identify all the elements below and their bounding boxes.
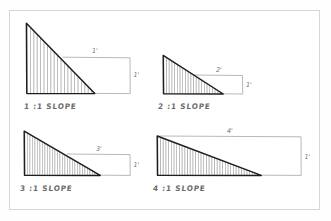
- figure-slope-3-1: 3' 1' 3 :1 SLOPE: [22, 128, 137, 183]
- run-dimension-4-1: 4': [227, 127, 233, 135]
- figure-slope-2-1-drawing: 2' 1': [161, 52, 261, 102]
- rise-dimension-4-1: 1': [305, 153, 311, 161]
- figure-slope-1-1: 1' 1' 1 :1 SLOPE: [24, 19, 134, 101]
- rise-dimension-3-1: 1': [134, 161, 140, 169]
- figure-label-slope-3-1: 3 :1 SLOPE: [19, 184, 73, 194]
- figure-slope-3-1-drawing: 3' 1': [22, 128, 137, 183]
- dimension-box-1-1: [63, 57, 131, 93]
- triangle-outline-1-1: [26, 23, 94, 93]
- rise-dimension-1-1: 1': [134, 71, 140, 79]
- figure-slope-1-1-drawing: 1' 1': [24, 19, 134, 101]
- figure-label-slope-2-1: 2 :1 SLOPE: [157, 102, 211, 112]
- dimension-box-3-1: [67, 154, 130, 175]
- figure-slope-2-1: 2' 1' 2 :1 SLOPE: [161, 52, 261, 102]
- run-dimension-1-1: 1': [92, 47, 98, 55]
- drawing-sheet: 1' 1' 1 :1 SLOPE: [0, 0, 331, 221]
- triangle-outline-2-1: [163, 55, 223, 94]
- figure-label-slope-1-1: 1 :1 SLOPE: [23, 102, 77, 112]
- dimension-box-4-1: [158, 136, 302, 175]
- run-dimension-2-1: 2': [216, 66, 222, 74]
- figure-label-slope-4-1: 4 :1 SLOPE: [152, 184, 206, 194]
- run-dimension-3-1: 3': [96, 145, 102, 153]
- figure-slope-4-1-drawing: 4' 1': [155, 133, 310, 183]
- figure-slope-4-1: 4' 1' 4 :1 SLOPE: [155, 133, 310, 183]
- rise-dimension-2-1: 1': [246, 81, 252, 89]
